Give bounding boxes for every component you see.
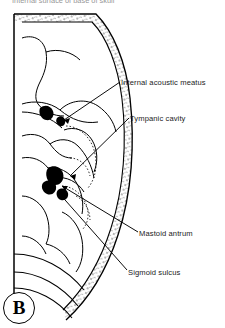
anatomical-figure-panel-b: Internal surface of base of skull [0,0,225,328]
cranial-fossa-contours [22,37,116,172]
mastoid-region-contours [22,196,83,272]
label-mastoid-antrum: Mastoid antrum [139,229,193,238]
panel-label-b: B [3,292,35,324]
label-tympanic-cavity: Tympanic cavity [130,114,186,123]
skull-base-illustration [0,0,225,328]
label-sigmoid-sulcus: Sigmoid sulcus [128,268,180,277]
skull-inner-table [22,22,124,310]
label-internal-acoustic-meatus: Internal acoustic meatus [121,78,206,87]
